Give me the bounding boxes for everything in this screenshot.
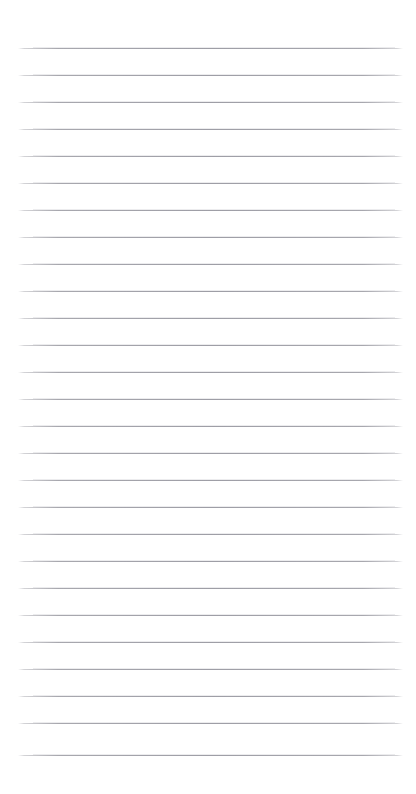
- rule-line: [18, 237, 403, 238]
- rule-line: [18, 48, 403, 49]
- rule-line: [18, 345, 403, 346]
- rule-line: [18, 453, 403, 454]
- rule-line: [18, 372, 403, 373]
- rule-line: [18, 399, 403, 400]
- rule-line: [18, 588, 403, 589]
- rule-line: [18, 102, 403, 103]
- rule-line: [18, 291, 403, 292]
- rule-line: [18, 615, 403, 616]
- rule-line: [18, 480, 403, 481]
- rule-line: [18, 318, 403, 319]
- rule-line: [18, 75, 403, 76]
- rule-line: [18, 642, 403, 643]
- rule-line: [18, 426, 403, 427]
- ruled-lines-group: [0, 0, 416, 794]
- rule-line: [18, 507, 403, 508]
- rule-line: [18, 561, 403, 562]
- rule-line: [18, 183, 403, 184]
- rule-line: [18, 534, 403, 535]
- rule-line: [18, 129, 403, 130]
- rule-line: [18, 696, 403, 697]
- rule-line: [18, 755, 403, 756]
- rule-line: [18, 723, 403, 724]
- rule-line: [18, 156, 403, 157]
- rule-line: [18, 669, 403, 670]
- rule-line: [18, 210, 403, 211]
- rule-line: [18, 264, 403, 265]
- lined-paper-page: [0, 0, 416, 794]
